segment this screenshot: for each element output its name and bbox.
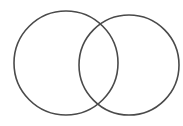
right-set-circle — [79, 15, 179, 115]
left-set-circle — [14, 11, 118, 115]
venn-diagram — [0, 0, 183, 126]
